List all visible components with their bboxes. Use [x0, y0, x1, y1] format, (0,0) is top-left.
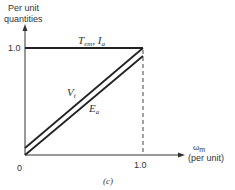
figure-caption: (c) [103, 176, 113, 186]
y-axis-label-line1: Per unit [8, 3, 39, 13]
x-axis-unit: (per unit) [188, 153, 224, 163]
label-ea: Ea [89, 103, 99, 117]
x-axis-arrow-icon [178, 153, 185, 158]
curve-vt [25, 48, 143, 148]
curve-ea [25, 56, 143, 155]
label-vt: Vt [67, 87, 76, 101]
y-tick-label: 1.0 [8, 43, 21, 53]
origin-label: 0 [17, 163, 22, 173]
y-axis-label-line2: quantities [4, 14, 43, 24]
x-tick-label: 1.0 [134, 160, 147, 170]
y-axis-arrow-icon [23, 24, 28, 31]
label-tem-ia: Tem, Ia [78, 35, 105, 49]
